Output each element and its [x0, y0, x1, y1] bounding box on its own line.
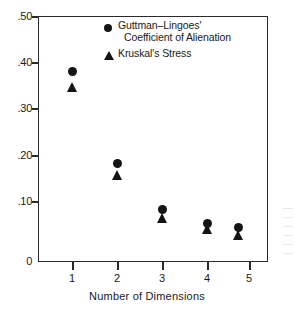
- legend-entry-kruskal-stress: Kruskal's Stress: [104, 48, 264, 62]
- legend-triangle-icon: [104, 51, 114, 60]
- y-tick-label: .30: [6, 103, 32, 114]
- x-axis-tick: [249, 262, 251, 270]
- x-axis-tick: [162, 262, 164, 270]
- y-axis: .50 .40 .30 .20 .10 0: [0, 0, 32, 312]
- y-tick-label: 0: [6, 256, 32, 267]
- data-point-triangle: [233, 230, 243, 240]
- data-point-triangle: [202, 224, 212, 234]
- y-tick-label: .20: [6, 150, 32, 161]
- legend-circle-icon: [104, 24, 112, 32]
- legend-label-line1: Kruskal's Stress: [118, 48, 264, 60]
- x-axis-tick: [207, 262, 209, 270]
- y-tick-label: .10: [6, 196, 32, 207]
- data-point-triangle: [67, 82, 77, 92]
- legend-entry-guttman-lingoes: Guttman–Lingoes' Coefficient of Alienati…: [104, 20, 264, 43]
- page-edge-artifact: [283, 208, 293, 256]
- x-tick-label: 4: [197, 272, 217, 284]
- data-point-circle: [68, 67, 77, 76]
- x-tick-label: 3: [152, 272, 172, 284]
- x-axis-tick: [72, 262, 74, 270]
- chart-legend: Guttman–Lingoes' Coefficient of Alienati…: [104, 20, 264, 64]
- legend-label-line1: Guttman–Lingoes': [118, 20, 264, 32]
- data-point-triangle: [112, 170, 122, 180]
- x-axis-title: Number of Dimensions: [0, 290, 294, 302]
- legend-label-line2: Coefficient of Alienation: [124, 32, 264, 44]
- data-point-circle: [113, 159, 122, 168]
- x-tick-label: 2: [107, 272, 127, 284]
- scatter-chart-figure: .50 .40 .30 .20 .10 0 1 2 3 4 5 Number o…: [0, 0, 294, 312]
- data-point-triangle: [157, 213, 167, 223]
- x-tick-label: 5: [239, 272, 259, 284]
- x-tick-label: 1: [62, 272, 82, 284]
- y-tick-label: .40: [6, 57, 32, 68]
- y-tick-label: .50: [6, 11, 32, 22]
- x-axis-tick: [117, 262, 119, 270]
